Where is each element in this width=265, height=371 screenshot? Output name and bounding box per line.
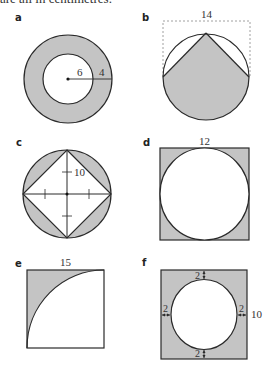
figure-c-label: c xyxy=(16,137,22,148)
figure-c: c 10 xyxy=(16,137,111,238)
figure-e: e 15 xyxy=(15,256,104,348)
figure-f: f 2 2 2 2 10 xyxy=(142,257,263,359)
gap-top-label: 2 xyxy=(195,270,200,281)
diagram-canvas: a 6 4 b 14 c 10 d 12 e xyxy=(0,0,265,371)
gap-bottom-label: 2 xyxy=(195,348,200,359)
gap-left-label: 2 xyxy=(163,303,168,314)
circle xyxy=(171,280,237,350)
width-label: 14 xyxy=(201,8,213,20)
figure-b: b 14 xyxy=(142,8,250,120)
side-label: 10 xyxy=(251,308,263,320)
figure-d: d 12 xyxy=(143,135,249,240)
figure-a-label: a xyxy=(15,12,22,23)
inscribed-circle xyxy=(160,148,249,240)
ring-width-label: 4 xyxy=(99,66,105,78)
figure-d-label: d xyxy=(143,137,150,148)
dimension-label: 10 xyxy=(74,166,86,178)
center-point xyxy=(66,193,69,196)
inner-radius-label: 6 xyxy=(77,66,83,78)
gap-right-label: 2 xyxy=(239,303,244,314)
figure-a: a 6 4 xyxy=(15,12,112,123)
figure-f-label: f xyxy=(142,257,147,268)
side-label: 15 xyxy=(60,256,72,268)
figure-b-label: b xyxy=(142,12,149,23)
side-label: 12 xyxy=(199,135,210,147)
figure-e-label: e xyxy=(15,258,22,269)
